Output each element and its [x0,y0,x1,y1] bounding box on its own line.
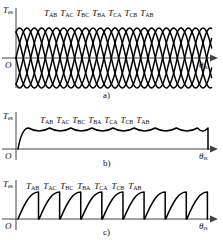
panel-b: Tes TABTACTBCTBATCATCBTAB O θrs b) [0,104,223,170]
panel-a-plot [0,0,223,104]
panel-a: Tes TABTACTBCTBATCATCBTAB O θrs a) [0,0,223,104]
panel-a-x-axis-arrowhead [210,55,218,62]
panel-c: Tes TABTACTBCTBATCATCBTAB O θrs c) [0,170,223,240]
panel-c-x-axis-arrowhead [210,216,218,223]
panel-c-plot [0,170,223,240]
panel-b-plot [0,104,223,170]
panel-c-sawtooth-curve [18,192,207,219]
panel-b-x-axis-arrowhead [210,146,218,153]
torque-waveform-figure: Tes TABTACTBCTBATCATCBTAB O θrs a) Tes T… [0,0,223,240]
panel-b-envelope-curve [18,128,208,149]
